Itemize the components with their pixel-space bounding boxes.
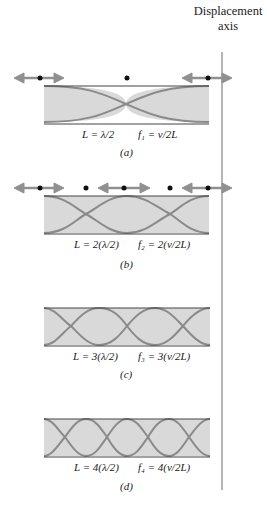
caption-b: (b) [120, 258, 133, 270]
antinode-dot [38, 76, 43, 81]
caption-d: (d) [120, 480, 133, 492]
axis-title-line1: Displacement [186, 4, 267, 19]
axis-title-line2: axis [186, 19, 267, 34]
node-dot [125, 76, 130, 81]
length-equation-a: L = λ/2 [82, 128, 114, 140]
standing-wave-diagram [0, 0, 267, 510]
frequency-equation-b: f₂ = 2(v/2L) [138, 238, 190, 250]
frequency-equation-d: f₄ = 4(v/2L) [138, 461, 190, 473]
panel-d [44, 419, 210, 457]
length-equation-b: L = 2(λ/2) [74, 238, 119, 250]
caption-c: (c) [120, 368, 132, 380]
length-equation-d: L = 4(λ/2) [74, 461, 119, 473]
panel-b [14, 183, 232, 234]
frequency-equation-c: f₃ = 3(v/2L) [138, 350, 190, 362]
length-equation-c: L = 3(λ/2) [73, 350, 118, 362]
axis-title: Displacement axis [186, 4, 267, 34]
panel-a [14, 73, 232, 124]
frequency-equation-a: f₁ = v/2L [138, 128, 177, 140]
panel-c [44, 308, 210, 346]
caption-a: (a) [120, 146, 133, 158]
antinode-dot [206, 76, 211, 81]
